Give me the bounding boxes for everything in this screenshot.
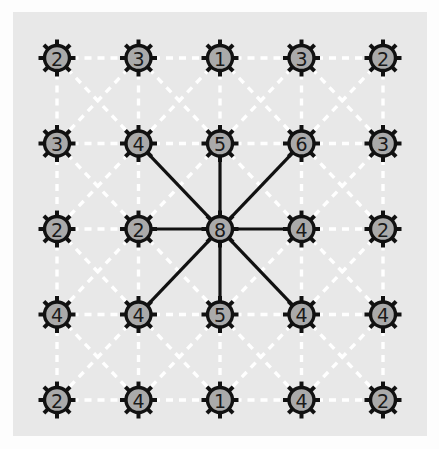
cog-node-body[interactable] xyxy=(45,302,70,327)
cog-node[interactable]: 4 xyxy=(120,125,157,162)
cog-node[interactable]: 3 xyxy=(283,40,320,77)
cog-node-body[interactable] xyxy=(289,302,314,327)
cog-node[interactable]: 4 xyxy=(283,296,320,333)
cog-node[interactable]: 2 xyxy=(365,40,402,77)
cog-node-body[interactable] xyxy=(371,46,396,71)
cog-node[interactable]: 2 xyxy=(39,382,76,419)
cog-node[interactable]: 2 xyxy=(120,211,157,248)
cog-node[interactable]: 3 xyxy=(365,125,402,162)
cog-node-body[interactable] xyxy=(45,46,70,71)
cog-node-body[interactable] xyxy=(126,131,151,156)
cog-node[interactable]: 2 xyxy=(39,211,76,248)
cog-node-body[interactable] xyxy=(45,217,70,242)
cog-node[interactable]: 4 xyxy=(283,382,320,419)
grid-network-diagram: 2313234563228424454424142 xyxy=(0,0,439,449)
cog-node[interactable]: 2 xyxy=(365,382,402,419)
cog-node-body[interactable] xyxy=(289,388,314,413)
cog-node-body[interactable] xyxy=(126,217,151,242)
cog-node-body[interactable] xyxy=(289,131,314,156)
cog-node[interactable]: 5 xyxy=(202,296,239,333)
cog-node-body[interactable] xyxy=(45,388,70,413)
cog-node-body[interactable] xyxy=(126,302,151,327)
cog-node-body[interactable] xyxy=(45,131,70,156)
cog-node[interactable]: 3 xyxy=(120,40,157,77)
cog-node-body[interactable] xyxy=(208,388,233,413)
cog-node[interactable]: 2 xyxy=(365,211,402,248)
cog-node[interactable]: 3 xyxy=(39,125,76,162)
cog-node-body[interactable] xyxy=(208,131,233,156)
cog-node[interactable]: 1 xyxy=(202,40,239,77)
cog-node[interactable]: 1 xyxy=(202,382,239,419)
cog-node-body[interactable] xyxy=(208,46,233,71)
cog-node[interactable]: 2 xyxy=(39,40,76,77)
cog-node-body[interactable] xyxy=(126,388,151,413)
cog-node[interactable]: 5 xyxy=(202,125,239,162)
cog-node[interactable]: 4 xyxy=(283,211,320,248)
cog-node-body[interactable] xyxy=(208,217,233,242)
cog-node[interactable]: 4 xyxy=(120,296,157,333)
cog-node-body[interactable] xyxy=(371,217,396,242)
cog-node-body[interactable] xyxy=(126,46,151,71)
cog-node-body[interactable] xyxy=(371,302,396,327)
cog-node-body[interactable] xyxy=(208,302,233,327)
cog-node[interactable]: 4 xyxy=(39,296,76,333)
cog-node[interactable]: 8 xyxy=(202,211,239,248)
cog-node-body[interactable] xyxy=(289,217,314,242)
cog-node-body[interactable] xyxy=(371,131,396,156)
cog-node[interactable]: 4 xyxy=(365,296,402,333)
cog-node-body[interactable] xyxy=(371,388,396,413)
diagram-canvas: 2313234563228424454424142 xyxy=(0,0,439,449)
cog-node-body[interactable] xyxy=(289,46,314,71)
cog-node[interactable]: 6 xyxy=(283,125,320,162)
cog-node[interactable]: 4 xyxy=(120,382,157,419)
